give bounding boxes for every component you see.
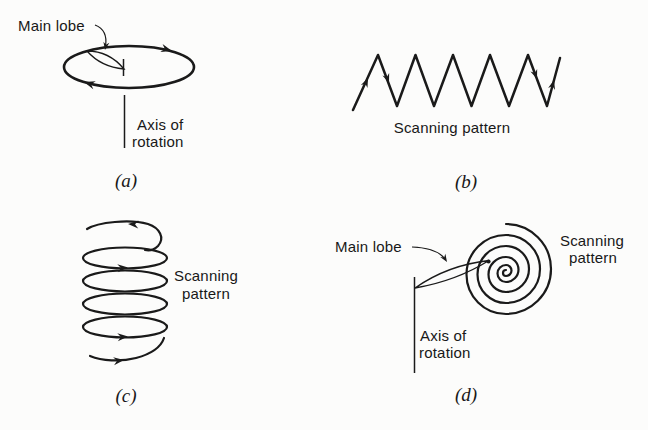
panel-b-caption: (b) [455, 171, 477, 193]
helical-coil-top-turn [87, 222, 161, 251]
main-lobe-shape [87, 51, 124, 69]
direction-arrow [530, 69, 540, 80]
scanning-pattern-label-line1: Scanning [560, 232, 624, 249]
scanning-patterns-figure: Main lobe Axis of rotation (a) Scanning … [0, 0, 648, 430]
panel-d: Main lobe Axis of rotation Scanning patt… [335, 224, 624, 406]
helical-coil-loop [83, 271, 167, 292]
helical-coil-loop [83, 294, 167, 315]
conical-scan-circle [64, 46, 194, 88]
axis-of-rotation-label-line2: rotation [419, 344, 471, 361]
scanning-pattern-label-line2: pattern [182, 285, 230, 302]
scanning-pattern-label-line2: pattern [569, 249, 617, 266]
main-lobe-leader-line [412, 247, 445, 259]
panel-d-caption: (d) [455, 384, 477, 406]
scanning-pattern-label-line1: Scanning [174, 267, 238, 284]
panel-c-caption: (c) [115, 385, 136, 407]
panel-c: Scanning pattern (c) [83, 220, 238, 407]
main-lobe-tip-dot [486, 259, 490, 263]
panel-b: Scanning pattern (b) [353, 55, 560, 193]
axis-of-rotation-label-line1: Axis of [137, 116, 184, 133]
figure-canvas: Main lobe Axis of rotation (a) Scanning … [0, 0, 648, 430]
axis-of-rotation-label-line1: Axis of [420, 327, 467, 344]
spiral-scan-path [467, 224, 551, 314]
panel-a: Main lobe Axis of rotation (a) [18, 17, 194, 192]
axis-of-rotation-label-line2: rotation [132, 133, 184, 150]
scanning-pattern-label: Scanning pattern [394, 119, 511, 136]
main-lobe-label: Main lobe [335, 238, 402, 255]
main-lobe-label: Main lobe [18, 17, 85, 34]
helical-coil-loop [83, 248, 167, 269]
zigzag-scan-path [353, 55, 560, 110]
panel-a-caption: (a) [115, 170, 137, 192]
helical-coil-loop [83, 317, 167, 338]
helical-coil-bottom-turn [90, 338, 164, 360]
